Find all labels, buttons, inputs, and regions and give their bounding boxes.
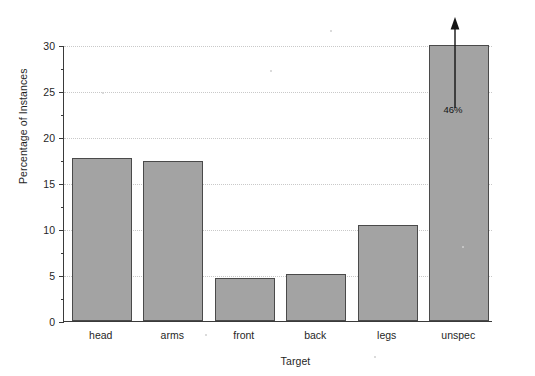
bar-arms [143,161,203,321]
y-axis-title: Percentage of Instances [17,68,29,184]
x-tick-label-legs: legs [347,330,427,341]
y-tick-label: 25 [43,87,55,98]
bar-head [72,158,132,321]
x-tick-label-back: back [275,330,355,341]
bar-legs [358,225,418,321]
y-tick-label: 20 [43,133,55,144]
scan-speckle [330,30,332,32]
bar-back [286,274,346,321]
y-tick-mark-minor [61,207,64,208]
y-tick-mark [59,230,64,231]
truncation-arrow-icon [448,16,462,108]
gridline [64,138,492,139]
y-tick-label: 10 [43,225,55,236]
y-tick-mark-minor [61,115,64,116]
x-axis-title-wrap: Target [0,355,535,367]
truncated-value-label: 46% [424,105,482,115]
x-axis-title: Target [281,355,311,367]
y-tick-mark-minor [61,161,64,162]
bar-chart: Percentage of Instances 302520151050 hea… [0,0,535,376]
bar-front [215,278,275,321]
y-tick-mark-minor [61,299,64,300]
gridline [64,46,492,47]
y-tick-mark [59,184,64,185]
x-tick-label-arms: arms [132,330,212,341]
plot-area: 302520151050 [63,46,492,322]
y-tick-mark-minor [61,253,64,254]
gridline [64,92,492,93]
x-tick-label-head: head [61,330,141,341]
y-tick-mark [59,92,64,93]
y-tick-label: 0 [49,317,55,328]
y-tick-mark [59,276,64,277]
y-tick-mark [59,138,64,139]
y-tick-mark-minor [61,69,64,70]
y-tick-mark [59,46,64,47]
x-tick-label-front: front [204,330,284,341]
y-tick-label: 15 [43,179,55,190]
y-tick-label: 5 [49,271,55,282]
y-tick-label: 30 [43,41,55,52]
y-tick-mark [59,322,64,323]
x-tick-label-unspec: unspec [418,330,498,341]
